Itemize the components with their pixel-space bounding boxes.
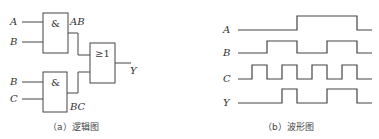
caption-logic-diagram: （a）逻辑图 bbox=[48, 121, 99, 132]
waveform-y bbox=[238, 89, 372, 103]
and-gate-2-output-label: BC bbox=[69, 101, 86, 112]
logic-diagram: & AB A B ≥1 Y & BC B C （a）逻辑图 bbox=[9, 13, 138, 132]
waveform-diagram: A B C Y （b）波形图 bbox=[222, 16, 372, 132]
or-gate: ≥1 bbox=[90, 43, 115, 83]
input-label-b1: B bbox=[9, 36, 17, 47]
signal-label-b: B bbox=[222, 47, 230, 58]
figure-canvas: & AB A B ≥1 Y & BC B C （a）逻辑图 A bbox=[0, 0, 379, 139]
and-gate-1-symbol: & bbox=[51, 18, 60, 29]
input-label-c: C bbox=[10, 93, 18, 104]
wire-ab-to-or bbox=[68, 33, 90, 55]
signal-label-a: A bbox=[222, 24, 230, 35]
waveform-c bbox=[238, 65, 372, 79]
and-gate-1-output-label: AB bbox=[69, 16, 85, 27]
and-gate-2: & BC bbox=[43, 72, 86, 112]
input-label-b2: B bbox=[9, 76, 17, 87]
or-gate-symbol: ≥1 bbox=[95, 48, 110, 59]
signal-label-c: C bbox=[223, 73, 231, 84]
signal-label-y: Y bbox=[223, 97, 231, 108]
waveform-b bbox=[238, 41, 372, 53]
caption-waveform-diagram: （b）波形图 bbox=[263, 121, 314, 132]
output-label-y: Y bbox=[130, 65, 138, 76]
input-label-a: A bbox=[9, 16, 17, 27]
wire-bc-to-or bbox=[67, 72, 90, 93]
and-gate-2-symbol: & bbox=[51, 77, 60, 88]
waveform-a bbox=[238, 16, 372, 30]
